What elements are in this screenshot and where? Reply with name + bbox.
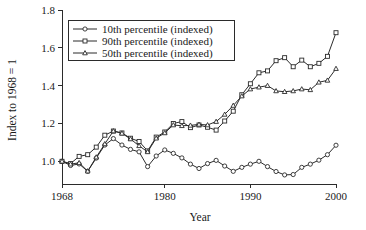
chart-legend: 10th percentile (indexed)90th percentile…	[68, 20, 234, 60]
x-tick-label: 1990	[239, 190, 262, 202]
data-point-marker	[154, 154, 158, 158]
data-point-marker	[128, 147, 132, 151]
data-point-marker	[231, 109, 235, 113]
x-axis-title: Year	[189, 211, 210, 223]
x-tick-label: 1980	[154, 190, 177, 202]
y-tick-label: 1.0	[41, 155, 55, 167]
data-point-marker	[197, 166, 201, 170]
data-point-marker	[325, 153, 329, 157]
line-chart: 1.01.21.41.61.8 1968198019902000 Index t…	[0, 0, 366, 230]
data-point-marker	[223, 119, 227, 123]
data-point-marker	[120, 143, 124, 147]
data-point-marker	[111, 137, 115, 141]
data-point-marker	[180, 156, 184, 160]
data-point-marker	[137, 150, 141, 154]
data-point-marker	[231, 169, 235, 173]
data-point-marker	[248, 82, 252, 86]
legend-marker	[83, 27, 87, 31]
data-point-marker	[94, 145, 98, 149]
data-point-marker	[188, 162, 192, 166]
y-axis-title: Index to 1968 = 1	[6, 59, 18, 141]
data-point-marker	[266, 69, 270, 73]
data-point-marker	[223, 164, 227, 168]
data-point-marker	[214, 158, 218, 162]
data-point-marker	[265, 165, 269, 169]
y-tick-label: 1.6	[41, 42, 55, 54]
data-point-marker	[317, 61, 321, 65]
data-point-marker	[86, 153, 90, 157]
data-point-marker	[274, 59, 278, 63]
data-point-marker	[308, 65, 312, 69]
data-point-marker	[291, 65, 295, 69]
data-point-marker	[317, 158, 321, 162]
data-point-marker	[308, 162, 312, 166]
y-tick-label: 1.8	[41, 4, 55, 16]
data-point-marker	[163, 148, 167, 152]
legend-label: 50th percentile (indexed)	[102, 47, 213, 60]
data-point-marker	[77, 154, 81, 158]
data-point-marker	[171, 151, 175, 155]
data-point-marker	[257, 159, 261, 163]
data-point-marker	[291, 172, 295, 176]
data-point-marker	[325, 54, 329, 58]
data-point-marker	[300, 58, 304, 62]
data-point-marker	[146, 165, 150, 169]
x-tick-label: 1968	[51, 190, 74, 202]
data-point-marker	[334, 143, 338, 147]
data-point-marker	[257, 71, 261, 75]
data-point-marker	[334, 31, 338, 35]
chart-container: 1.01.21.41.61.8 1968198019902000 Index t…	[0, 0, 366, 230]
y-tick-label: 1.4	[41, 80, 55, 92]
data-point-marker	[248, 162, 252, 166]
data-point-marker	[274, 169, 278, 173]
x-tick-label: 2000	[325, 190, 348, 202]
data-point-marker	[214, 128, 218, 132]
legend-marker	[83, 39, 87, 43]
data-point-marker	[240, 165, 244, 169]
data-point-marker	[103, 133, 107, 137]
y-tick-label: 1.2	[41, 117, 55, 129]
data-point-marker	[205, 161, 209, 165]
data-point-marker	[283, 56, 287, 60]
data-point-marker	[300, 165, 304, 169]
data-point-marker	[283, 173, 287, 177]
